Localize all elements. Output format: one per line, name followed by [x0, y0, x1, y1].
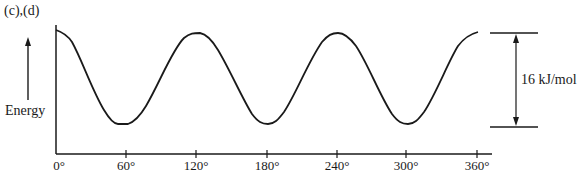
energy-plot [0, 0, 580, 174]
y-axis-label: Energy [5, 104, 45, 118]
barrier-label: 16 kJ/mol [521, 73, 577, 87]
x-tick-label: 360° [465, 159, 490, 172]
x-tick-label: 60° [117, 159, 135, 172]
x-tick-label: 240° [325, 159, 350, 172]
x-tick-label: 120° [184, 159, 209, 172]
energy-curve [56, 30, 478, 124]
panel-label: (c),(d) [4, 4, 39, 18]
x-tick-label: 0° [53, 159, 65, 172]
x-tick-label: 300° [394, 159, 419, 172]
energy-arrow-icon [25, 37, 31, 100]
x-tick-label: 180° [255, 159, 280, 172]
